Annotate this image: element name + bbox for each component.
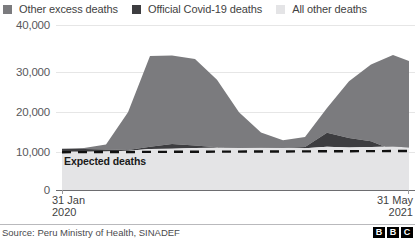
y-axis-tick-label: 0 xyxy=(44,184,50,196)
legend-label: Other excess deaths xyxy=(19,3,118,15)
y-axis-tick-label: 20,000 xyxy=(16,106,50,118)
chart-footer: Source: Peru Ministry of Health, SINADEF… xyxy=(0,224,415,240)
legend-item-official-covid-19-deaths: Official Covid-19 deaths xyxy=(132,3,262,15)
chart-grid-area: Expected deaths xyxy=(56,18,415,198)
x-axis-label-line1: 31 May xyxy=(377,194,413,206)
bbc-logo: B B C xyxy=(373,227,413,238)
axis-baseline-zero xyxy=(56,190,415,191)
chart-legend: Other excess deaths Official Covid-19 de… xyxy=(0,0,415,18)
legend-swatch-icon xyxy=(3,5,12,14)
y-axis-labels: 40,000 30,000 20,000 10,000 0 xyxy=(0,18,56,198)
x-axis-label-start: 31 Jan 2020 xyxy=(52,194,85,218)
bbc-logo-letter: B xyxy=(373,227,385,238)
x-axis-label-line2: 2020 xyxy=(52,206,85,218)
legend-swatch-icon xyxy=(276,5,285,14)
bbc-logo-letter: B xyxy=(387,227,399,238)
chart-plot-area: 40,000 30,000 20,000 10,000 0 Expected d… xyxy=(0,18,415,222)
legend-swatch-icon xyxy=(132,5,141,14)
legend-label: All other deaths xyxy=(292,3,367,15)
legend-item-other-excess-deaths: Other excess deaths xyxy=(3,3,118,15)
y-axis-tick-label: 30,000 xyxy=(16,66,50,78)
x-axis-label-line2: 2021 xyxy=(377,206,413,218)
legend-label: Official Covid-19 deaths xyxy=(148,3,262,15)
expected-deaths-annotation: Expected deaths xyxy=(64,155,146,167)
x-axis-label-end: 31 May 2021 xyxy=(377,194,413,218)
legend-item-all-other-deaths: All other deaths xyxy=(276,3,367,15)
bbc-logo-letter: C xyxy=(401,227,413,238)
x-axis-labels: 31 Jan 2020 31 May 2021 xyxy=(56,194,415,222)
source-attribution: Source: Peru Ministry of Health, SINADEF xyxy=(2,227,180,238)
y-axis-tick-label: 40,000 xyxy=(16,19,50,31)
y-axis-tick-label: 10,000 xyxy=(16,146,50,158)
x-axis-label-line1: 31 Jan xyxy=(52,194,85,206)
